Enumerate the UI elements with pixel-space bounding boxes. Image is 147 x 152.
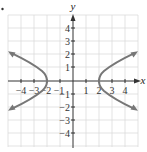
x-tick-label: 1 bbox=[84, 85, 89, 96]
x-tick-label: 4 bbox=[123, 85, 128, 96]
y-tick-label: 2 bbox=[65, 49, 70, 60]
hyperbola-graph: −4 −3 −2 −1 1 2 3 4 4 3 2 1 −1 −2 −3 −4 … bbox=[0, 0, 147, 152]
y-tick-label: −4 bbox=[59, 128, 70, 139]
y-tick-label: −2 bbox=[59, 102, 70, 113]
axes bbox=[8, 18, 136, 148]
y-tick-label: 4 bbox=[65, 23, 70, 34]
y-tick-label: −1 bbox=[59, 89, 70, 100]
x-tick-label: 3 bbox=[110, 85, 115, 96]
y-tick-label: 3 bbox=[65, 36, 70, 47]
y-axis-label: y bbox=[70, 0, 76, 12]
y-tick-label: 1 bbox=[65, 62, 70, 73]
y-tick-label: −3 bbox=[59, 115, 70, 126]
problem-marker-dot bbox=[1, 8, 3, 10]
x-tick-label: −4 bbox=[16, 85, 27, 96]
x-axis-label: x bbox=[140, 74, 146, 86]
